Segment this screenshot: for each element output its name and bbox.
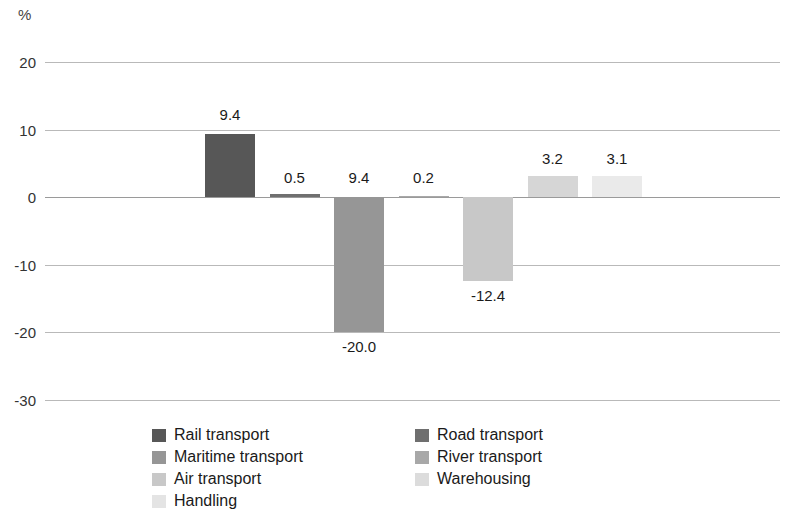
bar-value-label: 3.1 (607, 150, 628, 167)
bar-value-label: 9.4 (349, 169, 370, 186)
legend-column-right: Road transportRiver transportWarehousing (415, 424, 543, 490)
legend-swatch-icon (415, 473, 429, 486)
y-axis-tick-label: -20 (14, 324, 36, 341)
gridline: -30 (45, 400, 780, 401)
legend-item-label: Rail transport (174, 427, 269, 443)
plot-area: 20100-10-20-30 9.40.59.40.23.23.1-20.0-1… (45, 62, 780, 400)
legend-item-label: Handling (174, 493, 237, 509)
y-axis-tick-label: 0 (28, 189, 36, 206)
legend-swatch-icon (415, 451, 429, 464)
bar-air-transport (463, 197, 513, 281)
bar-maritime-transport (334, 197, 384, 332)
y-axis-tick-label: 20 (19, 54, 36, 71)
legend-swatch-icon (152, 495, 166, 508)
chart-legend: Rail transportMaritime transportAir tran… (152, 424, 752, 510)
gridline: 20 (45, 62, 780, 63)
legend-item-rail-transport[interactable]: Rail transport (152, 424, 303, 446)
legend-item-maritime-transport[interactable]: Maritime transport (152, 446, 303, 468)
y-axis-tick-label: 10 (19, 121, 36, 138)
bar-rail-transport (205, 134, 255, 198)
bar-value-label: 3.2 (542, 150, 563, 167)
y-axis-tick-label: -10 (14, 256, 36, 273)
legend-item-label: River transport (437, 449, 542, 465)
gridline: -20 (45, 332, 780, 333)
legend-item-label: Maritime transport (174, 449, 303, 465)
bar-warehousing (592, 176, 642, 197)
legend-item-label: Warehousing (437, 471, 531, 487)
bar-river-transport (399, 196, 449, 197)
bar-value-label-below: -12.4 (471, 287, 505, 304)
legend-item-warehousing[interactable]: Warehousing (415, 468, 543, 490)
bar-handling (528, 176, 578, 198)
y-axis-tick-label: -30 (14, 392, 36, 409)
legend-swatch-icon (152, 473, 166, 486)
bar-road-transport (270, 194, 320, 197)
bar-value-label: 0.2 (413, 169, 434, 186)
bar-value-label: 0.5 (284, 169, 305, 186)
legend-swatch-icon (152, 451, 166, 464)
bar-value-label: 9.4 (220, 106, 241, 123)
legend-item-handling[interactable]: Handling (152, 490, 303, 512)
bar-chart: % 20100-10-20-30 9.40.59.40.23.23.1-20.0… (0, 0, 793, 515)
legend-item-label: Air transport (174, 471, 261, 487)
legend-swatch-icon (415, 429, 429, 442)
legend-item-river-transport[interactable]: River transport (415, 446, 543, 468)
gridline: 10 (45, 130, 780, 131)
legend-swatch-icon (152, 429, 166, 442)
legend-column-left: Rail transportMaritime transportAir tran… (152, 424, 303, 512)
legend-item-road-transport[interactable]: Road transport (415, 424, 543, 446)
y-axis-unit-label: % (18, 6, 31, 23)
gridline: -10 (45, 265, 780, 266)
zero-axis-line: 0 (45, 197, 780, 198)
legend-item-air-transport[interactable]: Air transport (152, 468, 303, 490)
bar-value-label-below: -20.0 (342, 338, 376, 355)
legend-item-label: Road transport (437, 427, 543, 443)
